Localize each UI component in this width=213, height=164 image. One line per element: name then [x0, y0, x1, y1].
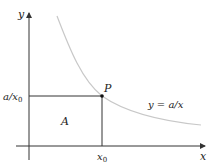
y-axis-label: y: [17, 8, 25, 21]
a-over-x0-tick-label: a/x0: [3, 91, 22, 104]
curve-label: y = a/x: [147, 99, 184, 110]
region-a-label: A: [60, 115, 69, 128]
hyperbola-diagram: y x P A y = a/x x0 a/x0: [0, 0, 213, 164]
x-axis-label: x: [200, 150, 207, 163]
point-p-label: P: [103, 82, 112, 95]
x0-tick-label: x0: [97, 151, 107, 164]
